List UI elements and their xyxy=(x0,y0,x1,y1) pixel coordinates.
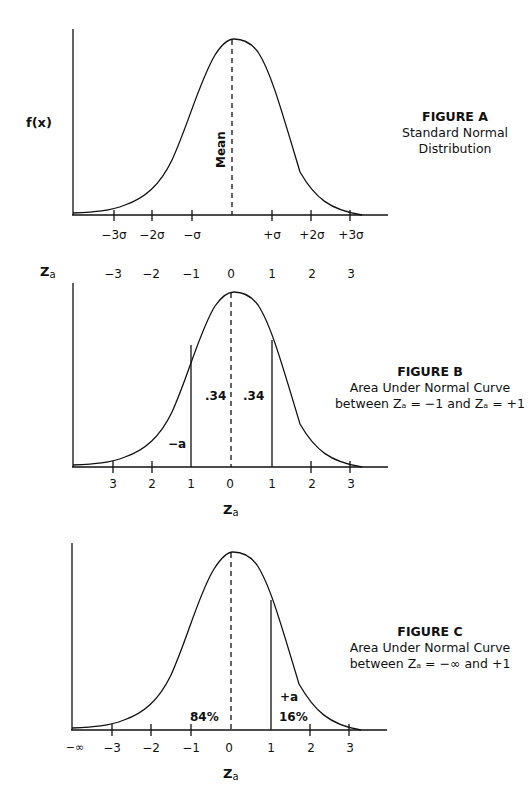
figure-a-curve xyxy=(73,39,362,215)
figure-c-left-area: 84% xyxy=(190,710,219,724)
figure-c-right-area: 16% xyxy=(279,710,308,724)
figure-c-subtitle-2: between Zₐ = −∞ and +1 xyxy=(330,656,530,672)
tick-label: 0 xyxy=(227,267,235,281)
tick-label: 0 xyxy=(225,741,233,755)
tick-label: 3 xyxy=(347,267,355,281)
figure-a-plot xyxy=(72,29,388,221)
figure-b-subtitle-1: Area Under Normal Curve xyxy=(330,380,530,396)
tick-label: 1 xyxy=(268,267,276,281)
figure-c-pos-a: +a xyxy=(280,690,298,704)
figure-a-subtitle-2: Distribution xyxy=(355,141,530,157)
figure-a-ylabel: f(x) xyxy=(26,115,52,130)
figure-b-title: FIGURE B xyxy=(330,364,530,380)
figure-c-caption: FIGURE C Area Under Normal Curve between… xyxy=(330,624,530,672)
figure-b-neg-a: −a xyxy=(168,437,186,451)
figure-b-left-area: .34 xyxy=(205,389,226,403)
figure-c-title: FIGURE C xyxy=(330,624,530,640)
tick-label: 2 xyxy=(308,267,316,281)
tick-label: 0 xyxy=(226,477,234,491)
figure-a-mean-label: Mean xyxy=(214,131,228,168)
za-sub: a xyxy=(232,771,238,782)
tick-label: +2σ xyxy=(299,228,324,242)
za-sub: a xyxy=(49,269,55,280)
tick-label: −∞ xyxy=(66,741,84,754)
tick-label: +3σ xyxy=(338,228,363,242)
tick-label: −σ xyxy=(183,228,201,242)
tick-label: 2 xyxy=(307,741,315,755)
figure-c-subtitle-1: Area Under Normal Curve xyxy=(330,640,530,656)
tick-label: 3 xyxy=(346,741,354,755)
tick-label: −1 xyxy=(182,267,200,281)
tick-label: −3 xyxy=(104,267,122,281)
figure-b-caption: FIGURE B Area Under Normal Curve between… xyxy=(330,364,530,412)
tick-label: 2 xyxy=(148,477,156,491)
figure-b-right-area: .34 xyxy=(243,389,264,403)
tick-label: −2σ xyxy=(139,228,164,242)
figure-b-subtitle-2: between Zₐ = −1 and Zₐ = +1 xyxy=(330,396,530,412)
za-sub: a xyxy=(232,507,238,518)
figure-c-xlabel: Za xyxy=(223,766,239,782)
tick-label: −3 xyxy=(103,741,121,755)
figure-a-za-label: Za xyxy=(40,264,56,280)
tick-label: −2 xyxy=(142,741,160,755)
tick-label: 2 xyxy=(308,477,316,491)
figure-b-curve xyxy=(73,292,362,467)
tick-label: 3 xyxy=(347,477,355,491)
tick-label: 1 xyxy=(187,477,195,491)
tick-label: −2 xyxy=(142,267,160,281)
tick-label: 1 xyxy=(267,741,275,755)
figure-c-curve xyxy=(72,552,361,730)
figure-b-xlabel: Za xyxy=(223,502,239,518)
tick-label: −1 xyxy=(182,741,200,755)
figure-a-subtitle-1: Standard Normal xyxy=(355,125,530,141)
tick-label: 3 xyxy=(109,477,117,491)
tick-label: −3σ xyxy=(101,228,126,242)
figure-a-caption: FIGURE A Standard Normal Distribution xyxy=(355,109,530,157)
tick-label: 1 xyxy=(268,477,276,491)
tick-label: +σ xyxy=(263,228,281,242)
figure-a-title: FIGURE A xyxy=(355,109,530,125)
